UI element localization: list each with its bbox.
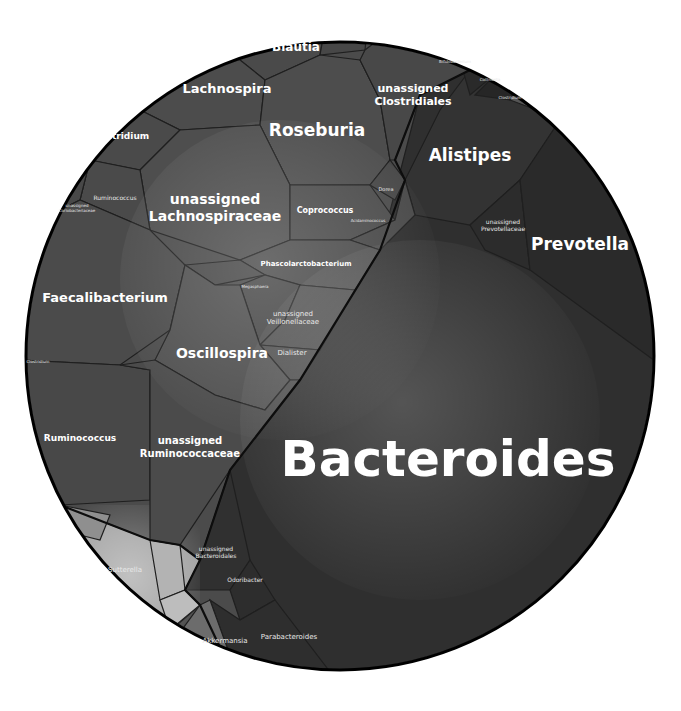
label-ruminococcus-small: Ruminococcus: [93, 194, 136, 201]
label-clostridium-top: Clostridium: [91, 131, 149, 141]
treemap-cells: [0, 0, 681, 711]
label-unassigned-lachnospiraceae-2: Lachnospiraceae: [149, 208, 281, 224]
label-ruminococcus: Ruminococcus: [44, 433, 116, 443]
label-unassigned-veillonellaceae-1: unassigned: [273, 310, 313, 318]
label-acidaminococcus: Acidaminococcus: [351, 218, 386, 223]
cell-small-top[interactable]: [320, 0, 370, 55]
bacteroides-glow: [240, 240, 600, 600]
label-unassigned-clostridiales-1: unassigned: [378, 82, 449, 95]
label-lachnospira: Lachnospira: [183, 81, 272, 96]
label-unassigned-prevotellaceae-2: Prevotellaceae: [481, 225, 525, 232]
label-oscillospira: Oscillospira: [176, 345, 268, 361]
label-collinsella: Collinsella: [480, 77, 501, 82]
voronoi-treemap: Bacteroides Prevotella Alistipes unassig…: [0, 0, 681, 711]
label-prevotella: Prevotella: [531, 234, 629, 254]
label-unassigned-clostridiales-2: Clostridiales: [374, 95, 452, 108]
label-clostridium-left: Clostridium: [27, 359, 50, 364]
label-roseburia: Roseburia: [269, 120, 365, 140]
label-phascolarctobacterium: Phascolarctobacterium: [261, 260, 352, 268]
label-unassigned-ruminococcaceae-1: unassigned: [158, 435, 223, 446]
label-clostridium-right: Clostridium: [499, 95, 522, 100]
label-bifidobacterium: Bifidobacterium: [439, 59, 471, 64]
label-faecalibacterium: Faecalibacterium: [42, 290, 168, 305]
label-blautia: Blautia: [272, 40, 320, 54]
label-bacteroides: Bacteroides: [281, 430, 616, 488]
label-dorea: Dorea: [379, 186, 394, 192]
label-alistipes: Alistipes: [429, 145, 512, 165]
label-unassigned-veillonellaceae-2: Veillonellaceae: [267, 318, 319, 326]
label-akkermansia: Akkermansia: [202, 637, 247, 645]
label-sutterella: Sutterella: [108, 566, 142, 574]
label-coprococcus: Coprococcus: [297, 206, 354, 215]
label-megasphaera: Megasphaera: [241, 284, 269, 289]
label-unassigned-bacteroidales-2: Bacteroidales: [196, 552, 237, 559]
label-parabacteroides: Parabacteroides: [261, 633, 318, 641]
label-odoribacter: Odoribacter: [227, 576, 263, 583]
label-unassigned-coriobacteriaceae-2: Coriobacteriaceae: [59, 208, 96, 213]
label-unassigned-ruminococcaceae-2: Ruminococcaceae: [140, 448, 241, 459]
label-dialister: Dialister: [277, 349, 306, 357]
label-unassigned-lachnospiraceae-1: unassigned: [170, 191, 260, 207]
